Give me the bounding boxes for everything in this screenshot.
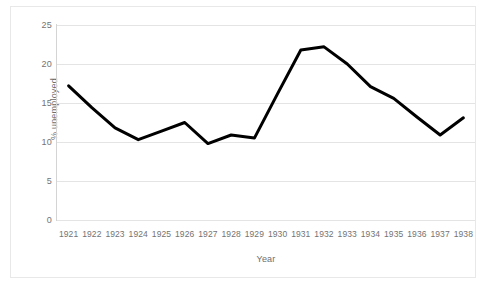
y-tick-label-10: 10 <box>24 138 52 147</box>
y-tick-label-25: 25 <box>24 21 52 30</box>
x-tick-label: 1932 <box>312 228 335 242</box>
x-tick-label: 1925 <box>150 228 173 242</box>
x-tick-label: 1923 <box>103 228 126 242</box>
x-tick-label: 1938 <box>452 228 475 242</box>
x-tick-label: 1937 <box>429 228 452 242</box>
x-tick-label: 1935 <box>382 228 405 242</box>
x-tick-label: 1927 <box>196 228 219 242</box>
x-tick-label: 1931 <box>289 228 312 242</box>
x-tick-label: 1928 <box>220 228 243 242</box>
y-tick-label-15: 15 <box>24 99 52 108</box>
x-axis-title: Year <box>57 254 475 264</box>
y-tick-label-20: 20 <box>24 60 52 69</box>
gridline-0 <box>57 220 475 221</box>
x-tick-label: 1934 <box>359 228 382 242</box>
x-tick-label: 1926 <box>173 228 196 242</box>
x-tick-label: 1922 <box>80 228 103 242</box>
x-tick-label: 1933 <box>336 228 359 242</box>
y-tick-label-5: 5 <box>24 177 52 186</box>
x-tick-label: 1929 <box>243 228 266 242</box>
x-tick-label: 1924 <box>127 228 150 242</box>
x-tick-label: 1930 <box>266 228 289 242</box>
plot-area <box>57 25 475 220</box>
data-series-unemployment <box>57 25 475 220</box>
x-axis-tick-labels: 1921 1922 1923 1924 1925 1926 1927 1928 … <box>57 228 475 242</box>
y-axis-tick-labels: 25 20 15 10 5 0 <box>18 0 52 290</box>
x-tick-label: 1936 <box>405 228 428 242</box>
unemployment-line-chart: % unemployed 25 20 15 10 5 0 1921 1922 1… <box>0 0 486 290</box>
series-polyline <box>69 47 464 144</box>
x-tick-label: 1921 <box>57 228 80 242</box>
y-tick-label-0: 0 <box>24 216 52 225</box>
